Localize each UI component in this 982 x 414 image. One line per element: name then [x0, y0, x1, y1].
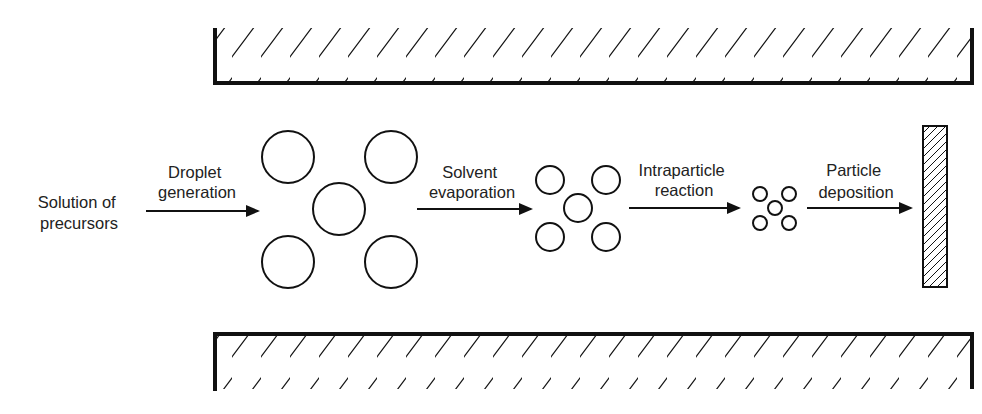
particle-circle-icon [564, 194, 592, 222]
small-particle-circle-icon [782, 187, 796, 201]
top-wall [215, 28, 972, 83]
step-particle-deposition: Particle deposition [807, 161, 911, 208]
droplets-cluster [262, 131, 417, 288]
deposition-substrate [923, 126, 947, 287]
diagram-canvas: Solution of precursors Droplet generatio… [0, 0, 982, 414]
droplet-circle-icon [262, 236, 314, 288]
particle-circle-icon [592, 166, 620, 194]
particle-circle-icon [536, 223, 564, 251]
step-droplet-generation: Droplet generation [146, 163, 258, 211]
step-solvent-evaporation: Solvent evaporation [417, 163, 531, 209]
step-label: Droplet generation [158, 163, 236, 201]
small-particle-circle-icon [753, 216, 767, 230]
small-particle-circle-icon [753, 187, 767, 201]
droplet-circle-icon [365, 131, 417, 183]
small-particle-circle-icon [768, 201, 782, 215]
source-label: Solution of precursors [38, 193, 121, 232]
droplet-circle-icon [365, 236, 417, 288]
step-label: Particle deposition [818, 161, 893, 201]
dried-particles-cluster [536, 166, 620, 251]
reacted-particles-cluster [753, 187, 796, 230]
bottom-wall [215, 334, 972, 391]
small-particle-circle-icon [782, 216, 796, 230]
step-label: Solvent evaporation [429, 163, 515, 201]
particle-circle-icon [536, 166, 564, 194]
particle-circle-icon [592, 223, 620, 251]
droplet-circle-icon [313, 183, 365, 235]
droplet-circle-icon [262, 131, 314, 183]
step-intraparticle-reaction: Intraparticle reaction [629, 161, 739, 208]
step-label: Intraparticle reaction [639, 161, 730, 199]
